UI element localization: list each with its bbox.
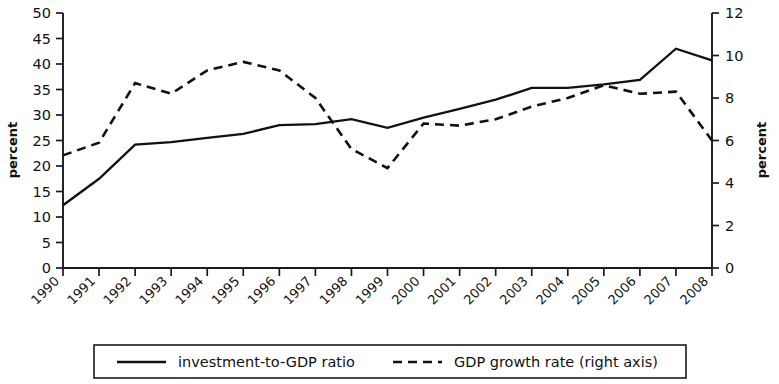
x-tick-label: 1998 — [317, 274, 351, 308]
x-tick-label: 2003 — [497, 274, 531, 308]
left-tick-label: 35 — [33, 82, 51, 98]
left-tick-label: 10 — [33, 209, 51, 225]
left-tick-label: 20 — [33, 158, 51, 174]
right-tick-label: 0 — [725, 260, 734, 276]
left-tick-label: 30 — [33, 107, 51, 123]
left-axis-tick-labels: 05101520253035404550 — [33, 5, 51, 276]
x-tick-label: 2006 — [605, 274, 639, 308]
legend-label-gdp-growth-rate: GDP growth rate (right axis) — [454, 354, 658, 370]
x-tick-label: 2004 — [533, 274, 567, 308]
x-tick-label: 2005 — [569, 274, 603, 308]
series-gdp-growth-rate — [63, 62, 712, 168]
x-tick-label: 1997 — [281, 274, 315, 308]
x-tick-label: 1994 — [172, 274, 206, 308]
right-axis-title: percent — [754, 122, 769, 179]
left-axis: 05101520253035404550 — [33, 5, 63, 276]
right-tick-label: 6 — [725, 133, 734, 149]
left-tick-label: 50 — [33, 5, 51, 21]
x-tick-label: 1992 — [100, 274, 134, 308]
x-tick-label: 1996 — [244, 274, 278, 308]
right-tick-label: 12 — [725, 5, 743, 21]
x-axis: 1990199119921993199419951996199719981999… — [28, 268, 712, 308]
plot-series — [63, 49, 712, 206]
left-tick-label: 40 — [33, 56, 51, 72]
chart-figure: percent percent 05101520253035404550 024… — [0, 0, 779, 384]
series-investment-to-gdp-ratio — [63, 49, 712, 206]
left-tick-label: 15 — [33, 184, 51, 200]
legend-label-investment-to-gdp-ratio: investment-to-GDP ratio — [178, 354, 355, 370]
left-tick-label: 25 — [33, 133, 51, 149]
right-axis-tick-labels: 024681012 — [725, 5, 743, 276]
right-tick-label: 4 — [725, 175, 734, 191]
x-tick-label: 1990 — [28, 274, 62, 308]
left-axis-title: percent — [5, 122, 20, 179]
left-tick-label: 5 — [42, 235, 51, 251]
x-tick-label: 2007 — [641, 274, 675, 308]
right-tick-label: 8 — [725, 90, 734, 106]
x-tick-label: 2002 — [461, 274, 495, 308]
x-tick-label: 1991 — [64, 274, 98, 308]
right-axis: 024681012 — [712, 5, 743, 276]
x-tick-label: 1993 — [136, 274, 170, 308]
legend: investment-to-GDP ratio GDP growth rate … — [94, 345, 686, 378]
left-tick-label: 0 — [42, 260, 51, 276]
x-tick-label: 1995 — [208, 274, 242, 308]
right-tick-label: 10 — [725, 48, 743, 64]
right-tick-label: 2 — [725, 218, 734, 234]
x-axis-tick-labels: 1990199119921993199419951996199719981999… — [28, 274, 711, 308]
x-tick-label: 2001 — [425, 274, 459, 308]
x-tick-label: 2000 — [389, 274, 423, 308]
left-tick-label: 45 — [33, 31, 51, 47]
x-tick-label: 1999 — [353, 274, 387, 308]
left-axis-ticks — [56, 13, 63, 268]
right-axis-ticks — [712, 13, 719, 268]
x-tick-label: 2008 — [677, 274, 711, 308]
